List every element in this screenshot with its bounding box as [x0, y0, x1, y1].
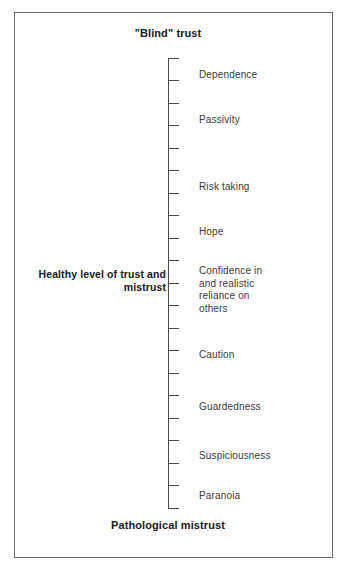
continuum-descriptor-label: Dependence: [199, 69, 257, 82]
trust-mistrust-continuum-figure: "Blind" trust Healthy level of trust and…: [0, 0, 350, 577]
axis-tick: [168, 283, 179, 284]
continuum-descriptor-label: Caution: [199, 349, 235, 362]
continuum-descriptor-label: Risk taking: [199, 181, 250, 194]
axis-tick: [168, 463, 179, 464]
axis-tick: [168, 440, 179, 441]
axis-tick: [168, 80, 179, 81]
axis-tick: [168, 305, 179, 306]
axis-tick: [168, 418, 179, 419]
continuum-descriptor-label: Paranoia: [199, 490, 240, 503]
axis-tick: [168, 260, 179, 261]
axis-tick: [168, 170, 179, 171]
axis-tick: [168, 350, 179, 351]
axis-tick: [168, 103, 179, 104]
axis-tick: [168, 373, 179, 374]
axis-tick: [168, 328, 179, 329]
axis-tick: [168, 215, 179, 216]
axis-top-anchor-label: "Blind" trust: [88, 27, 248, 40]
axis-tick: [168, 125, 179, 126]
continuum-descriptor-label: Confidence in and realistic reliance on …: [199, 265, 262, 315]
axis-tick: [168, 238, 179, 239]
continuum-descriptor-label: Guardedness: [199, 401, 261, 414]
continuum-descriptor-label: Suspiciousness: [199, 450, 271, 463]
axis-tick: [168, 395, 179, 396]
axis-bottom-anchor-label: Pathological mistrust: [88, 519, 248, 532]
axis-tick: [168, 508, 179, 509]
axis-tick: [168, 485, 179, 486]
axis-tick: [168, 58, 179, 59]
axis-tick: [168, 148, 179, 149]
axis-tick: [168, 193, 179, 194]
continuum-descriptor-label: Passivity: [199, 114, 240, 127]
axis-midpoint-label: Healthy level of trust and mistrust: [26, 268, 166, 294]
continuum-descriptor-label: Hope: [199, 226, 224, 239]
